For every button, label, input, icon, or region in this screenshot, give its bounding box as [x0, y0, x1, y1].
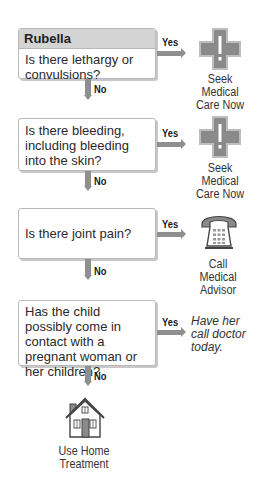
no-label: No [94, 83, 106, 95]
question-text: Is there bleeding, including bleeding in… [19, 119, 155, 172]
outcome-note: Have her call doctor today. [191, 315, 253, 354]
final-outcome-caption: Use Home Treatment [55, 445, 113, 471]
yes-arrow [157, 51, 181, 56]
yes-label: Yes [162, 218, 178, 230]
flowchart-title: Rubella [19, 29, 155, 49]
no-label: No [94, 175, 106, 187]
telephone-icon [199, 210, 239, 252]
yes-label: Yes [162, 36, 178, 48]
yes-arrow [157, 142, 181, 147]
medical-cross-icon [199, 116, 241, 158]
no-arrow [85, 259, 91, 275]
question-text: Is there joint pain? [19, 209, 155, 245]
no-arrow [85, 79, 91, 95]
question-box-lethargy: Rubella Is there lethargy or convulsions… [18, 28, 156, 79]
no-arrow [85, 171, 91, 186]
house-icon [64, 396, 106, 440]
outcome-caption: Seek Medical Care Now [191, 73, 249, 112]
yes-arrow [157, 232, 181, 237]
outcome-caption: Call Medical Advisor [189, 258, 247, 297]
question-box-bleeding: Is there bleeding, including bleeding in… [18, 118, 156, 171]
no-label: No [94, 370, 106, 382]
yes-arrow [157, 330, 181, 335]
yes-label: Yes [162, 127, 178, 139]
question-box-contact: Has the child possibly come in contact w… [18, 300, 156, 366]
medical-cross-icon [199, 28, 241, 70]
outcome-caption: Seek Medical Care Now [191, 162, 249, 201]
question-box-joint-pain: Is there joint pain? [18, 208, 156, 259]
no-label: No [94, 265, 106, 277]
no-arrow [85, 366, 91, 381]
yes-label: Yes [162, 316, 178, 328]
